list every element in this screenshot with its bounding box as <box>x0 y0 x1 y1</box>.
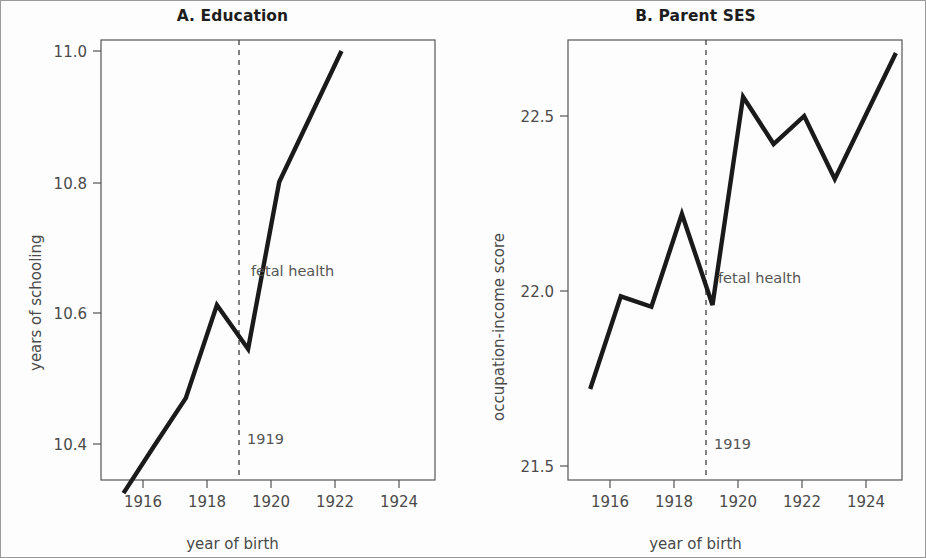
x-tick-label: 1924 <box>380 493 418 511</box>
y-tick-label: 10.8 <box>54 175 87 193</box>
x-axis-title-b: year of birth <box>464 535 926 553</box>
data-line-parent-ses <box>590 53 896 389</box>
panel-b-plot: 22.5 22.0 21.5 1916 1918 1920 1922 1924 … <box>464 1 926 558</box>
x-tick-label: 1924 <box>847 493 885 511</box>
y-tick-label: 22.5 <box>521 108 554 126</box>
panel-education: A. Education 11.0 10.8 10.6 10.4 <box>1 1 464 558</box>
y-tick-label: 22.0 <box>521 283 554 301</box>
figure-container: A. Education 11.0 10.8 10.6 10.4 <box>0 0 926 558</box>
y-tick-label: 10.6 <box>54 305 87 323</box>
y-tick-label: 10.4 <box>54 436 87 454</box>
panel-a-plot: 11.0 10.8 10.6 10.4 1916 1918 1920 1922 … <box>1 1 464 558</box>
panel-parent-ses: B. Parent SES 22.5 22.0 21.5 1916 <box>464 1 926 558</box>
x-tick-label: 1922 <box>316 493 354 511</box>
x-axis-title-a: year of birth <box>1 535 464 553</box>
x-axis-ticks-b <box>610 480 866 488</box>
x-tick-label: 1922 <box>783 493 821 511</box>
y-axis-title-b: occupation-income score <box>490 233 508 421</box>
plot-frame-a <box>101 40 435 480</box>
plot-frame-b <box>568 40 902 480</box>
x-tick-label: 1916 <box>124 493 162 511</box>
y-tick-label: 21.5 <box>521 458 554 476</box>
y-axis-ticks-a <box>93 51 101 444</box>
annotation-fetal-health-a: fetal health <box>251 263 334 279</box>
x-tick-label: 1920 <box>252 493 290 511</box>
y-tick-label: 11.0 <box>54 43 87 61</box>
x-axis-ticks-a <box>143 480 399 488</box>
annotation-year-1919-a: 1919 <box>247 431 284 447</box>
y-axis-ticks-b <box>560 116 568 466</box>
x-tick-label: 1918 <box>188 493 226 511</box>
annotation-fetal-health-b: fetal health <box>718 270 801 286</box>
x-tick-label: 1918 <box>655 493 693 511</box>
annotation-year-1919-b: 1919 <box>714 436 751 452</box>
x-tick-label: 1920 <box>719 493 757 511</box>
x-tick-label: 1916 <box>591 493 629 511</box>
y-axis-title-a: years of schooling <box>27 234 45 371</box>
